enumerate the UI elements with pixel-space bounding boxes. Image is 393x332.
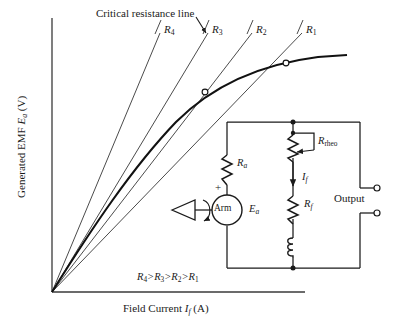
curve-label-R3-sub: 3 [219,28,223,37]
label-Rrheo-sub: rheo [324,139,337,148]
label-Ra: Ra [237,158,247,169]
curve-label-R2-sym: R [256,23,263,35]
curve-label-R2: R2 [256,24,267,36]
output-terminal-bottom [374,210,380,216]
resistance-inequality-label: R4>R3>R2>R1 [137,272,199,283]
label-Rf: Rf [304,199,313,210]
label-If: If [302,172,308,183]
ineq-p4: >R [164,271,178,282]
axis-lines [52,18,305,292]
curve-label-R4-sub: 4 [171,28,175,37]
resistor-Ra-symbol [222,155,232,185]
curve-label-R3-sym: R [212,23,219,35]
curve-label-R1-sub: 1 [313,28,317,37]
rheostat-wiper-arrow [297,150,314,152]
line-R1 [52,33,302,292]
curve-label-R1-sym: R [306,23,313,35]
y-axis-label-sym: E [15,118,27,125]
ineq-p6: >R [181,271,195,282]
ineq-p2: >R [147,271,161,282]
label-Ea: Ea [249,204,259,215]
label-If-sub: f [306,175,308,184]
inductor-field-coil [288,238,293,258]
label-Ea-sub: a [255,207,259,216]
armature-label: Arm [214,204,231,214]
x-axis-label: Field Current If (A) [123,303,209,316]
curve-label-R2-sub: 2 [263,28,267,37]
y-axis-label-pre: Generated EMF [15,125,27,198]
output-label: Output [334,193,365,204]
line-R2 [52,33,252,292]
x-axis-label-post: (A) [191,302,209,314]
label-Ra-sub: a [243,161,247,170]
label-ticks [155,20,303,34]
line-R3-critical [52,33,208,292]
label-Rf-sub: f [310,202,312,211]
ineq-p7: 1 [195,275,199,284]
critical-resistance-line-label: Critical resistance line [96,8,194,19]
curve-label-R4-sym: R [164,23,171,35]
y-axis-label: Generated EMF Ea (V) [15,67,29,227]
x-axis-label-pre: Field Current [123,302,185,314]
curve-label-R3: R3 [212,24,223,36]
output-terminal-top [374,185,380,191]
polarity-plus-label: + [215,182,221,193]
prime-mover-triangle [172,200,195,220]
curve-label-R1: R1 [306,24,317,36]
figure-magnetization-curve: Critical resistance line R4 R3 R2 R1 Gen… [0,0,393,332]
rheostat-wiper-bracket [293,133,314,150]
label-Rrheo: Rrheo [318,136,337,147]
line-R4 [52,33,160,292]
y-axis-label-sub: a [20,114,29,118]
curve-label-R4: R4 [164,24,175,36]
resistance-load-lines [52,33,302,292]
resistor-rheostat-symbol [288,135,298,162]
y-axis-label-post: (V) [15,96,27,114]
